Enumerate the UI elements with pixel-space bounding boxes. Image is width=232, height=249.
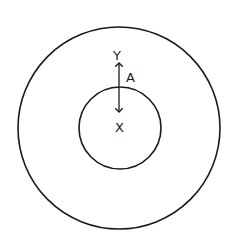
label-x: X bbox=[115, 120, 124, 135]
label-y: Y bbox=[112, 48, 121, 63]
label-a: A bbox=[126, 70, 135, 85]
concentric-circles-diagram: Y A X bbox=[0, 0, 232, 249]
